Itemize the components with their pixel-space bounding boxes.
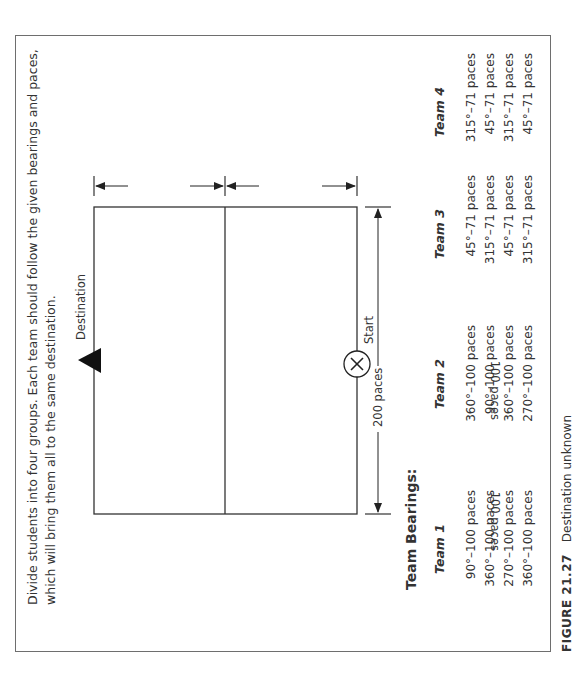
destination-triangle-icon bbox=[78, 348, 101, 373]
team-bearings-title: Team Bearings: bbox=[403, 469, 419, 590]
team-1-column: Team 1 90°–100 paces 360°–100 paces 270°… bbox=[432, 490, 538, 610]
team-2-row: 360°–100 paces bbox=[462, 325, 481, 445]
team-1-row: 90°–100 paces bbox=[462, 490, 481, 610]
team-4-row: 315°–71 paces bbox=[462, 53, 481, 173]
figure-number: FIGURE 21.27 bbox=[560, 554, 574, 652]
length-label: 200 paces bbox=[371, 366, 385, 429]
team-4-column: Team 4 315°–71 paces 45°–71 paces 315°–7… bbox=[432, 53, 538, 173]
team-1-row: 360°–100 paces bbox=[481, 490, 500, 610]
team-3-row: 315°–71 paces bbox=[519, 175, 538, 295]
team-4-header: Team 4 bbox=[432, 53, 462, 173]
team-3-column: Team 3 45°–71 paces 315°–71 paces 45°–71… bbox=[432, 175, 538, 295]
team-1-header: Team 1 bbox=[432, 490, 462, 610]
team-2-column: Team 2 360°–100 paces 90°–100 paces 360°… bbox=[432, 325, 538, 445]
team-2-header: Team 2 bbox=[432, 325, 462, 445]
team-1-row: 360°–100 paces bbox=[519, 490, 538, 610]
start-circled-x-icon bbox=[344, 351, 370, 377]
destination-label: Destination bbox=[74, 274, 88, 340]
team-3-header: Team 3 bbox=[432, 175, 462, 295]
team-3-row: 45°–71 paces bbox=[500, 175, 519, 295]
team-3-row: 45°–71 paces bbox=[462, 175, 481, 295]
figure-title: Destination unknown bbox=[560, 415, 574, 542]
start-label: Start bbox=[362, 316, 376, 344]
team-2-row: 360°–100 paces bbox=[500, 325, 519, 445]
team-4-row: 45°–71 paces bbox=[481, 53, 500, 173]
team-4-row: 45°–71 paces bbox=[519, 53, 538, 173]
figure-caption: FIGURE 21.27Destination unknown bbox=[560, 415, 574, 652]
team-2-row: 270°–100 paces bbox=[519, 325, 538, 445]
team-3-row: 315°–71 paces bbox=[481, 175, 500, 295]
team-2-row: 90°–100 paces bbox=[481, 325, 500, 445]
team-1-row: 270°–100 paces bbox=[500, 490, 519, 610]
rotated-document-page: Divide students into four groups. Each t… bbox=[0, 0, 586, 682]
team-4-row: 315°–71 paces bbox=[500, 53, 519, 173]
